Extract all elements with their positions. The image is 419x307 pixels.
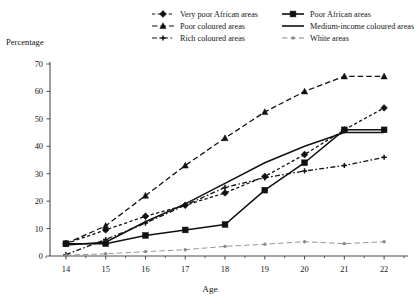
data-point xyxy=(382,240,385,243)
data-point xyxy=(144,250,147,253)
legend-label: Poor coloured areas xyxy=(180,22,245,31)
legend-marker xyxy=(290,11,296,17)
legend-label: Rich coloured areas xyxy=(180,34,245,43)
x-axis-tick-label: 17 xyxy=(181,265,189,274)
data-point xyxy=(184,248,187,251)
x-axis-tick-label: 14 xyxy=(62,265,71,274)
legend-label: Medium-income coloured areas xyxy=(310,22,414,31)
data-point xyxy=(64,253,67,256)
data-point xyxy=(222,222,228,228)
x-axis-tick-label: 18 xyxy=(221,265,229,274)
data-point xyxy=(143,233,149,239)
chart-background xyxy=(0,0,419,307)
data-point xyxy=(262,187,268,193)
x-axis-tick-label: 19 xyxy=(261,265,269,274)
y-axis-tick-label: 0 xyxy=(39,252,43,261)
y-axis-tick-label: 70 xyxy=(35,60,43,69)
legend-label: White areas xyxy=(310,34,349,43)
data-point xyxy=(343,242,346,245)
data-point xyxy=(263,243,266,246)
data-point xyxy=(223,245,226,248)
chart-canvas: Very poor African areasPoor African area… xyxy=(0,0,419,307)
data-point xyxy=(104,252,107,255)
x-axis-tick-label: 22 xyxy=(380,265,388,274)
line-chart: Very poor African areasPoor African area… xyxy=(0,0,419,307)
y-axis-tick-label: 20 xyxy=(35,197,43,206)
y-axis-tick-label: 60 xyxy=(35,87,43,96)
x-axis-tick-label: 21 xyxy=(340,265,348,274)
legend-label: Very poor African areas xyxy=(180,10,258,19)
x-axis-title: Age xyxy=(202,284,217,294)
y-axis-tick-label: 30 xyxy=(35,170,43,179)
data-point xyxy=(302,160,308,166)
y-axis-tick-label: 50 xyxy=(35,115,43,124)
x-axis-tick-label: 16 xyxy=(141,265,149,274)
data-point xyxy=(303,240,306,243)
y-axis-title: Percentage xyxy=(6,37,44,47)
y-axis-tick-label: 10 xyxy=(35,225,43,234)
x-axis-tick-label: 15 xyxy=(101,265,109,274)
legend-marker xyxy=(291,36,294,39)
data-point xyxy=(182,227,188,233)
y-axis-tick-label: 40 xyxy=(35,142,43,151)
x-axis-tick-label: 20 xyxy=(300,265,308,274)
legend-label: Poor African areas xyxy=(310,10,371,19)
